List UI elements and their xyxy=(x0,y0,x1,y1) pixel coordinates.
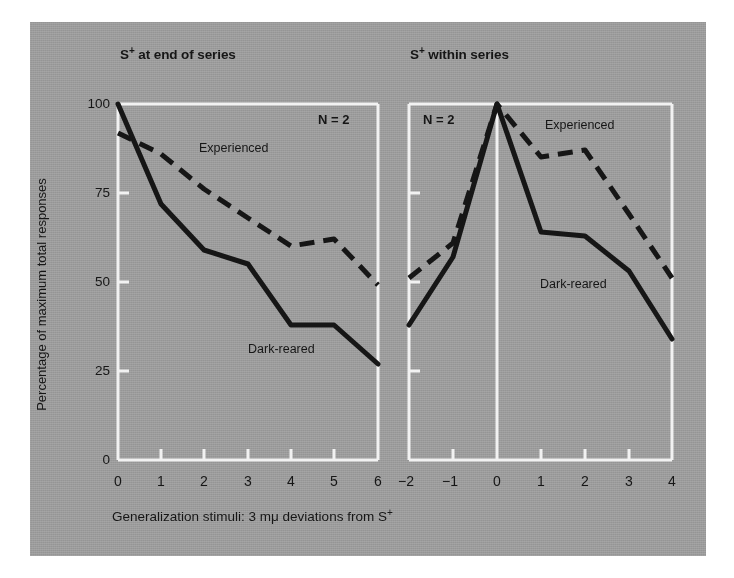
left-x-tick-label-1: 1 xyxy=(148,473,174,489)
panel-title-left: S+ at end of series xyxy=(120,47,236,62)
y-tick-label-0: 0 xyxy=(76,452,110,467)
panel-title-right-rest: within series xyxy=(425,47,509,62)
plot-surface xyxy=(0,0,734,578)
right-experienced-curve-label: Experienced xyxy=(545,118,615,132)
panel-title-right-prefix: S xyxy=(410,47,419,62)
panel-title-left-rest: at end of series xyxy=(135,47,236,62)
x-axis-title-mu-symbol: μ xyxy=(271,509,279,524)
left-panel-y-ticks xyxy=(118,193,129,371)
right-panel-x-ticks xyxy=(453,449,629,460)
right-dark-reared-curve xyxy=(409,104,672,339)
right-x-tick-label-2: 2 xyxy=(572,473,598,489)
right-panel-n-annotation: N = 2 xyxy=(423,112,454,127)
left-experienced-curve-label: Experienced xyxy=(199,141,269,155)
left-panel-axis-frame xyxy=(118,104,378,460)
y-tick-label-75: 75 xyxy=(76,185,110,200)
x-axis-title: Generalization stimuli: 3 mμ deviations … xyxy=(112,509,393,524)
x-axis-title-before: Generalization stimuli: 3 m xyxy=(112,509,271,524)
y-tick-label-50: 50 xyxy=(76,274,110,289)
left-x-tick-label-4: 4 xyxy=(278,473,304,489)
right-x-tick-label-minus1: −1 xyxy=(437,473,463,489)
x-axis-title-after: deviations from S xyxy=(279,509,387,524)
figure-root: S+ at end of series S+ within series N =… xyxy=(0,0,734,578)
panel-title-left-prefix: S xyxy=(120,47,129,62)
x-axis-title-superscript: + xyxy=(387,507,393,518)
right-dark-reared-curve-label: Dark-reared xyxy=(540,277,607,291)
left-panel-x-ticks xyxy=(161,449,334,460)
right-panel-y-ticks xyxy=(409,193,420,371)
panel-title-right: S+ within series xyxy=(410,47,509,62)
left-panel-n-annotation: N = 2 xyxy=(318,112,349,127)
left-x-tick-label-0: 0 xyxy=(105,473,131,489)
right-experienced-curve xyxy=(409,104,672,278)
left-dark-reared-curve-label: Dark-reared xyxy=(248,342,315,356)
y-tick-label-25: 25 xyxy=(76,363,110,378)
y-axis-title: Percentage of maximum total responses xyxy=(34,165,49,425)
right-x-tick-label-1: 1 xyxy=(528,473,554,489)
left-x-tick-label-5: 5 xyxy=(321,473,347,489)
right-x-tick-label-3: 3 xyxy=(616,473,642,489)
right-x-tick-label-4: 4 xyxy=(659,473,685,489)
y-tick-label-100: 100 xyxy=(76,96,110,111)
right-x-tick-label-0: 0 xyxy=(484,473,510,489)
left-x-tick-label-2: 2 xyxy=(191,473,217,489)
left-x-tick-label-3: 3 xyxy=(235,473,261,489)
right-x-tick-label-minus2: −2 xyxy=(393,473,419,489)
left-x-tick-label-6: 6 xyxy=(365,473,391,489)
